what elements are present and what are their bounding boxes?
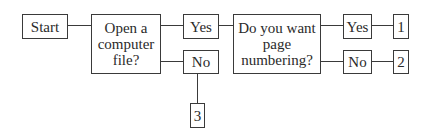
connector-start-q1 xyxy=(67,25,91,26)
start-node: Start xyxy=(22,14,68,39)
connector-no-3 xyxy=(197,73,198,103)
answer-yes-node-1: Yes xyxy=(183,14,219,39)
connector-no-2 xyxy=(371,61,393,62)
answer-yes-node-2: Yes xyxy=(343,14,372,39)
connector-q2-no xyxy=(320,61,343,62)
question-page-numbering-node: Do you want page numbering? xyxy=(233,14,321,74)
connector-yes-q2 xyxy=(218,25,233,26)
connector-q1-yes xyxy=(160,25,183,26)
outcome-2-node: 2 xyxy=(393,50,409,74)
outcome-3-node: 3 xyxy=(190,103,205,128)
outcome-1-node: 1 xyxy=(393,14,409,39)
connector-yes-1 xyxy=(371,25,393,26)
connector-q2-yes xyxy=(320,25,343,26)
answer-no-node-2: No xyxy=(343,50,372,74)
question-open-file-node: Open a computer file? xyxy=(91,14,161,74)
connector-q1-no xyxy=(160,61,183,62)
answer-no-node-1: No xyxy=(183,50,219,74)
